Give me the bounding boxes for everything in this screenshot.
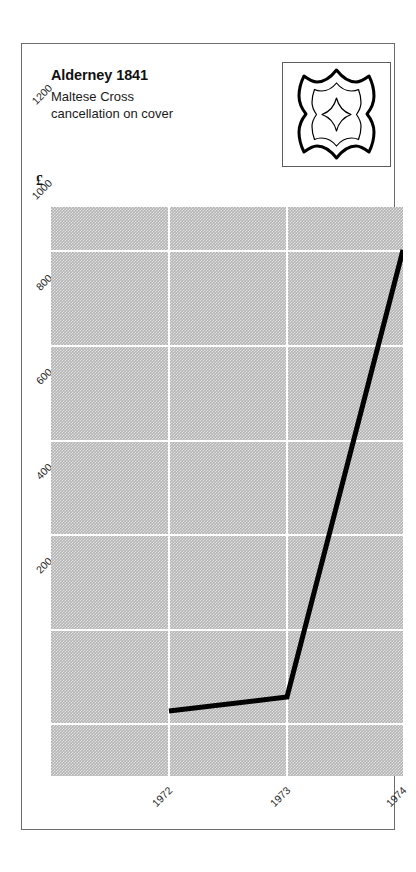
x-tick-label-1974: 1974 [372, 784, 409, 821]
plot-area [51, 207, 403, 776]
x-tick-label-1973: 1973 [256, 784, 293, 821]
price-history-chart: £ 1200 1000 800 600 400 200 1972 1973 [22, 44, 396, 831]
x-tick-label-1972: 1972 [138, 784, 175, 821]
y-tick-label-200: 200 [22, 555, 55, 588]
price-line-series [51, 207, 403, 776]
chart-card: Alderney 1841 Maltese Cross cancellation… [21, 43, 395, 830]
y-tick-label-400: 400 [22, 461, 55, 494]
y-tick-label-600: 600 [22, 366, 55, 399]
y-tick-label-800: 800 [22, 272, 55, 305]
y-tick-label-1200: 1200 [19, 82, 54, 117]
